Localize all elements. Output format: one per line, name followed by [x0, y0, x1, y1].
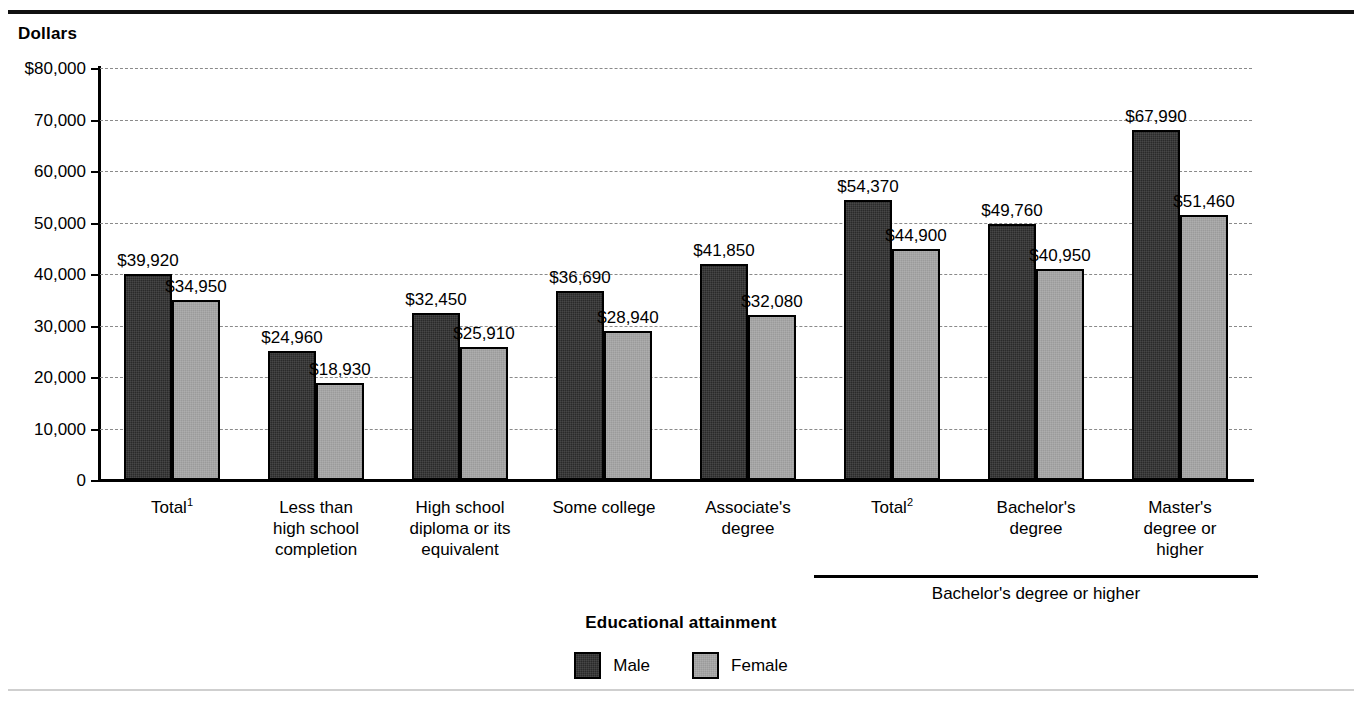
dark-square-swatch	[574, 652, 601, 679]
y-axis-tick	[91, 480, 100, 482]
bar-value-label: $51,460	[1149, 193, 1259, 210]
x-axis-category-label: High schooldiploma or itsequivalent	[382, 497, 538, 560]
legend-label: Female	[731, 657, 788, 674]
top-cropped-text	[470, 0, 890, 7]
y-axis-tick	[91, 223, 100, 225]
gridline	[100, 68, 1252, 69]
bar-value-label: $28,940	[573, 309, 683, 326]
y-axis-tick	[91, 274, 100, 276]
y-axis-tick	[91, 326, 100, 328]
bar-female	[604, 331, 652, 480]
bar-value-label: $32,080	[717, 293, 827, 310]
bar-male	[1132, 130, 1180, 480]
y-axis-tick-label: 0	[0, 472, 86, 489]
bottom-divider-rule	[8, 689, 1354, 691]
y-axis-tick-label: 10,000	[0, 421, 86, 438]
bar-female	[748, 315, 796, 480]
x-axis-category-label: Associate'sdegree	[670, 497, 826, 539]
plot-area: 010,00020,00030,00040,00050,00060,00070,…	[100, 68, 1252, 480]
bar-female	[172, 300, 220, 480]
legend-item-female: Female	[692, 652, 788, 679]
y-axis-tick-label: 60,000	[0, 163, 86, 180]
gridline	[100, 120, 1252, 121]
bar-male	[124, 274, 172, 480]
y-axis-tick	[91, 377, 100, 379]
bar-value-label: $41,850	[669, 242, 779, 259]
y-axis-tick-label: 70,000	[0, 112, 86, 129]
x-axis-category-label: Total1	[94, 497, 250, 518]
x-axis-category-label: Some college	[526, 497, 682, 518]
bar-female	[460, 347, 508, 480]
bar-value-label: $39,920	[93, 252, 203, 269]
gray-square-swatch	[692, 652, 719, 679]
bar-value-label: $44,900	[861, 227, 971, 244]
y-axis-tick-label: 50,000	[0, 215, 86, 232]
y-axis-tick-label: 20,000	[0, 369, 86, 386]
bar-value-label: $67,990	[1101, 108, 1211, 125]
y-axis-tick	[91, 429, 100, 431]
bar-value-label: $18,930	[285, 361, 395, 378]
y-axis-tick-label: 30,000	[0, 318, 86, 335]
bar-value-label: $40,950	[1005, 247, 1115, 264]
bar-female	[1036, 269, 1084, 480]
bar-female	[1180, 215, 1228, 480]
footnote-marker: 1	[187, 496, 193, 508]
y-axis-tick	[91, 171, 100, 173]
bar-female	[892, 249, 940, 480]
footnote-marker: 2	[907, 496, 913, 508]
x-axis-category-label: Master'sdegree orhigher	[1102, 497, 1258, 560]
y-axis-title: Dollars	[18, 24, 77, 44]
x-axis-category-label: Less thanhigh schoolcompletion	[238, 497, 394, 560]
x-axis-category-label: Bachelor'sdegree	[958, 497, 1114, 539]
bar-value-label: $25,910	[429, 325, 539, 342]
y-axis-tick-label: 40,000	[0, 266, 86, 283]
bar-female	[316, 383, 364, 480]
gridline	[100, 223, 1252, 224]
legend-item-male: Male	[574, 652, 650, 679]
x-axis-category-label: Total2	[814, 497, 970, 518]
group-bracket-label: Bachelor's degree or higher	[814, 584, 1258, 604]
bar-value-label: $54,370	[813, 178, 923, 195]
y-axis-tick	[91, 68, 100, 70]
bar-value-label: $36,690	[525, 269, 635, 286]
bar-value-label: $32,450	[381, 291, 491, 308]
bar-value-label: $49,760	[957, 202, 1067, 219]
group-bracket-line	[814, 575, 1258, 578]
top-divider-rule	[8, 10, 1354, 14]
y-axis-tick	[91, 120, 100, 122]
chart-page: Dollars 010,00020,00030,00040,00050,0006…	[0, 0, 1362, 702]
bar-value-label: $34,950	[141, 278, 251, 295]
bar-value-label: $24,960	[237, 329, 347, 346]
chart-legend: MaleFemale	[0, 652, 1362, 679]
y-axis-tick-label: $80,000	[0, 60, 86, 77]
legend-label: Male	[613, 657, 650, 674]
gridline	[100, 171, 1252, 172]
x-axis-title: Educational attainment	[0, 613, 1362, 633]
